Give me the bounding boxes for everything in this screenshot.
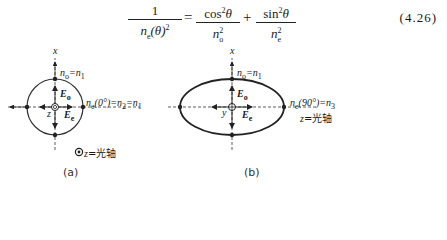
fig-a-x-axis-label: x [53, 45, 57, 56]
fig-b-right-label: ne(90°)=n3 [290, 97, 335, 111]
fig-b-ee-label: Ee [242, 109, 252, 123]
fig-a-z-label: z [47, 108, 51, 119]
fig-a-eo-label: Eo [60, 88, 71, 102]
fig-b-optic-axis-label: z=光轴 [300, 110, 332, 125]
fig-a-caption: (a) [63, 166, 78, 179]
fig-a-legend: z=光轴 [84, 145, 116, 160]
fig-a-top-label: no=n1 [60, 67, 85, 81]
fig-b-x-axis-label: x [230, 45, 234, 56]
fig-b-caption: (b) [244, 166, 260, 179]
fig-a-right-label: ne(0°)=n2=n1 [86, 97, 142, 111]
fig-b-y-label: y [222, 107, 226, 118]
fig-a-ee-label: Ee [64, 109, 74, 123]
fig-b-eo-label: Eo [237, 88, 248, 102]
fig-b-top-label: no=n1 [237, 67, 262, 81]
